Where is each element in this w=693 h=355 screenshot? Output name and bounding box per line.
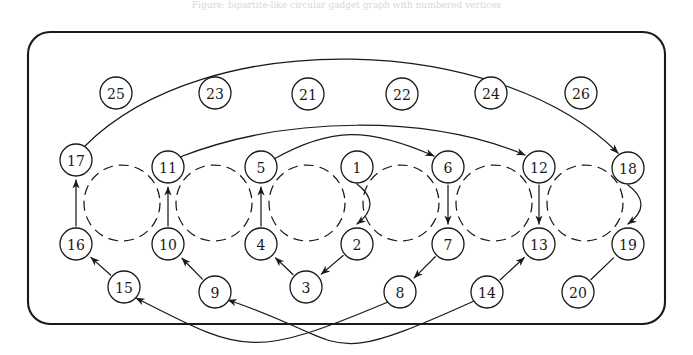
node-21[interactable]: 21 [292, 78, 324, 110]
node-label-15: 15 [115, 280, 133, 296]
edges-group [76, 59, 641, 344]
ring-10-11 [176, 165, 252, 241]
edge-18-to-19 [628, 185, 641, 224]
nodes-group: 1234567891011121314151617181920212223242… [60, 77, 644, 308]
ring-4-5 [269, 165, 345, 241]
node-20[interactable]: 20 [562, 276, 594, 308]
diagram-svg: 1234567891011121314151617181920212223242… [0, 0, 693, 355]
edge-7-to-8 [414, 257, 435, 278]
node-label-3: 3 [302, 280, 311, 296]
edge-17-to-18-arc [85, 59, 618, 153]
node-22[interactable]: 22 [386, 78, 418, 110]
node-label-21: 21 [299, 87, 317, 103]
node-18[interactable]: 18 [612, 152, 644, 184]
node-17[interactable]: 17 [60, 144, 92, 176]
figure-canvas: Figure: bipartite-like circular gadget g… [0, 0, 693, 355]
node-label-17: 17 [67, 153, 85, 169]
node-16[interactable]: 16 [60, 228, 92, 260]
edge-8-to-15-arc [136, 298, 388, 342]
node-label-6: 6 [444, 160, 453, 176]
node-5[interactable]: 5 [245, 151, 277, 183]
edge-9-to-10 [182, 258, 202, 279]
ring-12-13 [547, 165, 623, 241]
node-label-7: 7 [444, 237, 453, 253]
node-label-5: 5 [257, 160, 266, 176]
node-19[interactable]: 19 [612, 228, 644, 260]
edge-3-to-4 [275, 258, 293, 275]
node-24[interactable]: 24 [475, 77, 507, 109]
node-4[interactable]: 4 [245, 228, 277, 260]
node-12[interactable]: 12 [523, 151, 555, 183]
node-label-22: 22 [393, 87, 411, 103]
node-2[interactable]: 2 [341, 228, 373, 260]
node-23[interactable]: 23 [199, 77, 231, 109]
edge-20-to-19 [591, 258, 614, 280]
node-label-25: 25 [107, 86, 125, 102]
node-26[interactable]: 26 [565, 77, 597, 109]
node-label-26: 26 [572, 86, 590, 102]
node-label-18: 18 [619, 161, 637, 177]
node-13[interactable]: 13 [523, 228, 555, 260]
node-3[interactable]: 3 [290, 271, 322, 303]
node-label-12: 12 [530, 160, 548, 176]
node-11[interactable]: 11 [152, 151, 184, 183]
edge-2-to-3 [321, 256, 343, 275]
ring-16-17 [84, 165, 160, 241]
node-6[interactable]: 6 [432, 151, 464, 183]
node-label-2: 2 [353, 237, 362, 253]
edge-14-to-13 [500, 258, 524, 280]
node-label-13: 13 [530, 237, 548, 253]
node-label-16: 16 [67, 237, 85, 253]
node-1[interactable]: 1 [341, 151, 373, 183]
node-label-10: 10 [159, 237, 177, 253]
node-label-8: 8 [396, 285, 405, 301]
node-14[interactable]: 14 [471, 276, 503, 308]
node-label-19: 19 [619, 237, 637, 253]
node-15[interactable]: 15 [108, 271, 140, 303]
edge-14-to-9-arc [228, 300, 474, 344]
node-label-14: 14 [478, 285, 496, 301]
ring-1-2 [363, 165, 439, 241]
edge-15-to-16 [91, 257, 111, 275]
node-label-4: 4 [257, 237, 266, 253]
node-label-20: 20 [569, 285, 587, 301]
node-label-11: 11 [159, 160, 177, 176]
ring-6-7 [456, 165, 532, 241]
node-8[interactable]: 8 [384, 276, 416, 308]
node-9[interactable]: 9 [199, 276, 231, 308]
node-label-1: 1 [353, 160, 362, 176]
node-label-24: 24 [482, 86, 500, 102]
node-10[interactable]: 10 [152, 228, 184, 260]
node-7[interactable]: 7 [432, 228, 464, 260]
node-label-23: 23 [206, 86, 224, 102]
node-label-9: 9 [211, 285, 220, 301]
node-25[interactable]: 25 [100, 77, 132, 109]
